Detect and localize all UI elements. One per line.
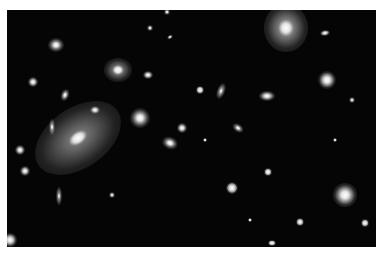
galaxy-object xyxy=(215,82,228,100)
galaxy-object xyxy=(248,218,252,222)
galaxy-cluster-photo xyxy=(7,10,376,247)
galaxy-object xyxy=(20,166,30,176)
galaxy-object xyxy=(7,233,17,247)
galaxy-object xyxy=(333,183,357,207)
galaxy-object xyxy=(56,187,62,205)
galaxy-object xyxy=(320,29,331,37)
galaxy-object xyxy=(264,168,272,176)
galaxy-object xyxy=(166,34,173,40)
galaxy-object xyxy=(104,58,132,82)
galaxy-object xyxy=(90,106,100,114)
galaxy-object xyxy=(264,10,308,52)
galaxy-object xyxy=(49,119,55,135)
galaxy-object xyxy=(147,25,153,31)
galaxy-object xyxy=(164,10,170,15)
galaxy-object xyxy=(268,240,276,246)
galaxy-object xyxy=(21,86,134,190)
galaxy-object xyxy=(361,219,369,227)
galaxy-object xyxy=(203,138,207,142)
galaxy-object xyxy=(48,38,64,52)
galaxy-object xyxy=(143,71,153,79)
galaxy-object xyxy=(196,86,204,94)
galaxy-object xyxy=(296,218,304,226)
galaxy-object xyxy=(333,138,337,142)
galaxy-object xyxy=(349,97,355,103)
galaxy-object xyxy=(160,135,179,152)
galaxy-object xyxy=(259,91,275,101)
galaxy-object xyxy=(59,88,71,102)
galaxy-object xyxy=(15,145,25,155)
galaxy-object xyxy=(318,71,336,89)
galaxy-object xyxy=(28,77,38,87)
galaxy-object xyxy=(226,182,238,194)
galaxy-object xyxy=(231,121,245,134)
galaxy-object xyxy=(177,123,187,133)
galaxy-object xyxy=(130,108,150,128)
galaxy-object xyxy=(109,192,115,198)
